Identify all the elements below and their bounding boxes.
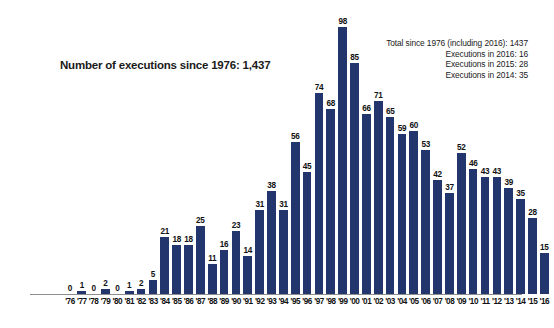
bar[interactable] <box>255 210 264 294</box>
bar[interactable] <box>398 134 407 294</box>
x-axis-tick: '88 <box>206 297 218 306</box>
bar-slot: 68 <box>325 10 337 294</box>
bar[interactable] <box>232 231 241 294</box>
bar[interactable] <box>409 131 418 294</box>
bar[interactable] <box>208 264 217 294</box>
bar-slot: 65 <box>384 10 396 294</box>
bar-value-label: 98 <box>338 17 347 26</box>
x-axis-tick: '96 <box>301 297 313 306</box>
bar-slot: 59 <box>396 10 408 294</box>
bar-value-label: 38 <box>267 181 276 190</box>
bar-slot: 14 <box>242 10 254 294</box>
bar[interactable] <box>338 27 347 294</box>
bar[interactable] <box>326 109 335 294</box>
bar-value-label: 39 <box>504 178 513 187</box>
bar-slot: 18 <box>183 10 195 294</box>
bar-slot: 16 <box>218 10 230 294</box>
bar-value-label: 2 <box>103 279 107 288</box>
x-axis-tick: '06 <box>420 297 432 306</box>
bar-value-label: 21 <box>161 227 170 236</box>
bar[interactable] <box>291 142 300 294</box>
bar[interactable] <box>469 169 478 294</box>
chart-page: Number of executions since 1976: 1,437 T… <box>0 0 554 328</box>
bar-slot: 23 <box>230 10 242 294</box>
bar[interactable] <box>493 177 502 294</box>
bar-value-label: 0 <box>92 284 96 293</box>
bar-value-label: 28 <box>528 208 537 217</box>
bar-slot: 21 <box>159 10 171 294</box>
bar[interactable] <box>315 93 324 294</box>
bar-value-label: 46 <box>469 159 478 168</box>
bar-value-label: 85 <box>350 53 359 62</box>
bar[interactable] <box>445 193 454 294</box>
x-axis-tick: '07 <box>432 297 444 306</box>
bar[interactable] <box>504 188 513 294</box>
bar-value-label: 43 <box>493 167 502 176</box>
bar[interactable] <box>481 177 490 294</box>
bar[interactable] <box>362 114 371 294</box>
bar-value-label: 5 <box>151 270 155 279</box>
x-axis-tick: '83 <box>147 297 159 306</box>
bar-slot: 98 <box>337 10 349 294</box>
bar-value-label: 43 <box>481 167 490 176</box>
x-axis-tick: '01 <box>361 297 373 306</box>
bar[interactable] <box>421 150 430 294</box>
x-axis-tick: '99 <box>337 297 349 306</box>
bar[interactable] <box>172 245 181 294</box>
bar[interactable] <box>303 172 312 294</box>
bar-value-label: 15 <box>540 243 549 252</box>
bar[interactable] <box>220 250 229 294</box>
x-axis-tick: '81 <box>123 297 135 306</box>
bar[interactable] <box>196 226 205 294</box>
bar[interactable] <box>374 101 383 294</box>
x-axis-tick: '79 <box>100 297 112 306</box>
bar[interactable] <box>149 280 158 294</box>
bar-slot: 18 <box>171 10 183 294</box>
bar-value-label: 74 <box>315 83 324 92</box>
bar-slot: 71 <box>372 10 384 294</box>
x-axis-tick: '87 <box>194 297 206 306</box>
x-axis-labels: '76'77'78'79'80'81'82'83'84'85'86'87'88'… <box>34 297 520 315</box>
x-axis-tick: '82 <box>135 297 147 306</box>
bar-slot: 1 <box>76 10 88 294</box>
bar-slot: 43 <box>491 10 503 294</box>
x-axis-tick: '89 <box>218 297 230 306</box>
bar-value-label: 1 <box>127 281 131 290</box>
bar-slot: 53 <box>420 10 432 294</box>
bar[interactable] <box>350 63 359 294</box>
x-axis-tick: '91 <box>242 297 254 306</box>
bar[interactable] <box>516 199 525 294</box>
x-axis-tick: '16 <box>538 297 550 306</box>
x-axis-tick: '94 <box>277 297 289 306</box>
bar[interactable] <box>540 253 549 294</box>
bar[interactable] <box>386 117 395 294</box>
bar-value-label: 71 <box>374 91 383 100</box>
bar-value-label: 18 <box>172 235 181 244</box>
bar[interactable] <box>528 218 537 294</box>
bar-value-label: 59 <box>398 124 407 133</box>
bar-slot: 45 <box>301 10 313 294</box>
x-axis-tick: '95 <box>289 297 301 306</box>
bar-slot: 2 <box>135 10 147 294</box>
bar-slot: 31 <box>277 10 289 294</box>
bar-slot: 56 <box>289 10 301 294</box>
bar[interactable] <box>160 237 169 294</box>
bar-value-label: 18 <box>184 235 193 244</box>
x-axis-tick: '15 <box>527 297 539 306</box>
bar[interactable] <box>267 191 276 294</box>
bar-value-label: 35 <box>516 189 525 198</box>
x-axis-tick: '09 <box>455 297 467 306</box>
bar[interactable] <box>279 210 288 294</box>
bar[interactable] <box>457 153 466 294</box>
bar-slot: 42 <box>432 10 444 294</box>
bar-value-label: 23 <box>232 221 241 230</box>
x-axis-tick: '02 <box>372 297 384 306</box>
bar-slot: 38 <box>266 10 278 294</box>
bar[interactable] <box>243 256 252 294</box>
bar-slot: 37 <box>444 10 456 294</box>
bar-value-label: 31 <box>255 200 264 209</box>
bar[interactable] <box>184 245 193 294</box>
bar-slot: 15 <box>538 10 550 294</box>
bar[interactable] <box>433 180 442 294</box>
bar-value-label: 60 <box>410 121 419 130</box>
